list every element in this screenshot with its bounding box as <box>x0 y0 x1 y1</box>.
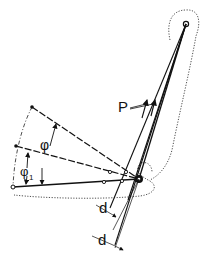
upper-limb-end-dot <box>30 105 34 109</box>
force-arrow-1 <box>142 100 147 118</box>
intersection-dot <box>102 180 105 183</box>
perp-line-2 <box>115 179 139 248</box>
lever-diagram: P φ φ 1 d d <box>0 0 210 259</box>
intersection-dot <box>120 179 123 182</box>
angle-phi1-label: φ <box>20 164 28 179</box>
lever-arm-label-2: d <box>98 231 106 248</box>
angle-phi1-index: 1 <box>29 173 34 182</box>
lower-limb-end-dot <box>11 185 15 189</box>
middle-limb-end-dot <box>14 144 18 148</box>
middle-limb-line <box>16 146 139 179</box>
intersection-dot <box>124 170 127 173</box>
lever-arm-label-1: d <box>99 199 107 216</box>
force-line-3 <box>128 24 186 200</box>
angle-phi-arrow <box>50 124 56 146</box>
upper-segment-outline <box>150 10 199 180</box>
lever-dim-2-ext <box>113 245 123 250</box>
perp-line-1 <box>113 179 139 230</box>
lever-dim-1-ext <box>113 215 116 217</box>
intersection-dot <box>108 170 111 173</box>
force-label: P <box>118 98 128 115</box>
angle-phi-label: φ <box>40 137 49 153</box>
lower-segment-outline <box>14 163 154 199</box>
